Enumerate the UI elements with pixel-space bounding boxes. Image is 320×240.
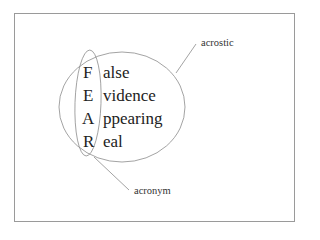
acrostic-word: eal xyxy=(103,133,123,150)
acronym-letter: F xyxy=(83,64,92,81)
acrostic-pointer xyxy=(176,44,196,73)
acronym-letter: A xyxy=(82,110,94,127)
acrostic-word: vidence xyxy=(103,87,156,104)
acronym-letter: R xyxy=(83,133,94,150)
acronym-letter: E xyxy=(83,87,93,104)
acrostic-label: acrostic xyxy=(201,38,234,49)
acrostic-word: ppearing xyxy=(103,110,162,127)
acronym-label: acronym xyxy=(134,186,171,197)
acrostic-word: alse xyxy=(103,64,129,81)
